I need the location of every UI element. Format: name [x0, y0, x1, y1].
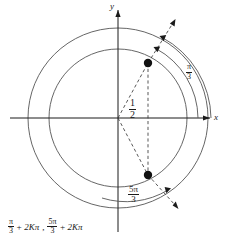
trig-unit-circle-figure: y x 1 2 π 3 5π 3 π 3 + 2Kπ , 5π 3	[0, 0, 230, 239]
formula-plus-1: +	[16, 222, 22, 232]
x-axis-arrowhead	[203, 115, 210, 120]
formula-periodic-2: 2Kπ	[68, 222, 83, 232]
figure-canvas	[0, 0, 230, 239]
formula-periodic-1: 2Kπ	[24, 222, 39, 232]
terminal-ray-5pi-over-3-arrowhead	[173, 201, 179, 209]
angle-label-pi-over-3: π 3	[186, 63, 192, 81]
terminal-ray-pi-over-3-arrowhead	[170, 19, 176, 27]
angle-arc-5pi-over-3-arrowhead	[165, 187, 171, 193]
general-solution-formula: π 3 + 2Kπ , 5π 3 + 2Kπ	[8, 218, 83, 236]
formula-term1-denominator: 3	[8, 227, 14, 235]
pi-over-3-denominator: 3	[186, 73, 192, 81]
one-half-denominator: 2	[129, 110, 136, 121]
y-axis-label: y	[110, 2, 114, 11]
point-marker-5pi-over-3	[144, 171, 152, 179]
formula-plus-2: +	[59, 222, 65, 232]
angle-label-5pi-over-3: 5π 3	[128, 185, 139, 205]
formula-term2-denominator: 3	[47, 227, 57, 235]
angle-arc-pi-over-3-inner	[156, 49, 198, 118]
one-half-numerator: 1	[129, 98, 136, 110]
point-marker-pi-over-3	[144, 59, 152, 67]
terminal-ray-5pi-over-3	[148, 175, 175, 205]
five-pi-over-3-denominator: 3	[128, 195, 139, 204]
formula-separator: ,	[41, 222, 45, 232]
radius-line-5pi-over-3	[118, 118, 148, 175]
angle-arc-pi-over-3-inner-arrowhead	[154, 46, 161, 52]
x-coordinate-one-half-label: 1 2	[129, 98, 136, 120]
y-axis-arrowhead	[115, 10, 120, 17]
x-axis-label: x	[214, 113, 218, 122]
